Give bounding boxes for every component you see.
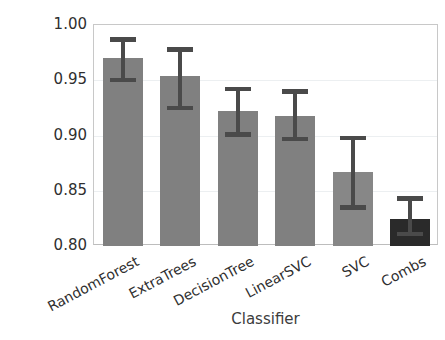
error-bar-cap-bottom <box>225 132 251 137</box>
error-bar-line <box>293 89 297 141</box>
gridline <box>94 80 437 81</box>
error-bar-line <box>351 136 355 210</box>
error-bar <box>395 196 425 236</box>
error-bar-cap-top <box>340 136 366 141</box>
error-bar <box>165 47 195 110</box>
bar <box>103 58 143 246</box>
gridline <box>94 136 437 137</box>
error-bar-cap-bottom <box>397 232 423 237</box>
error-bar-line <box>408 196 412 236</box>
error-bar-line <box>236 87 240 137</box>
error-bar <box>108 37 138 82</box>
bar-chart-figure: f-score 0.800.850.900.951.00 RandomFores… <box>0 0 445 340</box>
y-axis-tick-label: 0.95 <box>27 70 87 88</box>
plot-area <box>93 24 438 245</box>
error-bar-cap-top <box>110 37 136 42</box>
y-axis-tick-label: 0.80 <box>27 236 87 254</box>
error-bar-line <box>178 47 182 110</box>
y-axis-tick-label: 1.00 <box>27 15 87 33</box>
error-bar-cap-bottom <box>167 106 193 111</box>
error-bar-cap-top <box>167 47 193 52</box>
error-bar-cap-bottom <box>282 137 308 142</box>
gridline <box>94 191 437 192</box>
y-axis-tick-label: 0.90 <box>27 126 87 144</box>
error-bar <box>223 87 253 137</box>
error-bar-cap-top <box>225 87 251 92</box>
error-bar-cap-top <box>397 196 423 201</box>
error-bar <box>280 89 310 141</box>
y-axis-tick-label: 0.85 <box>27 181 87 199</box>
error-bar-cap-bottom <box>340 205 366 210</box>
error-bar-cap-bottom <box>110 78 136 83</box>
error-bar <box>338 136 368 210</box>
x-axis-label: Classifier <box>93 310 438 328</box>
error-bar-line <box>121 37 125 82</box>
error-bar-cap-top <box>282 89 308 94</box>
